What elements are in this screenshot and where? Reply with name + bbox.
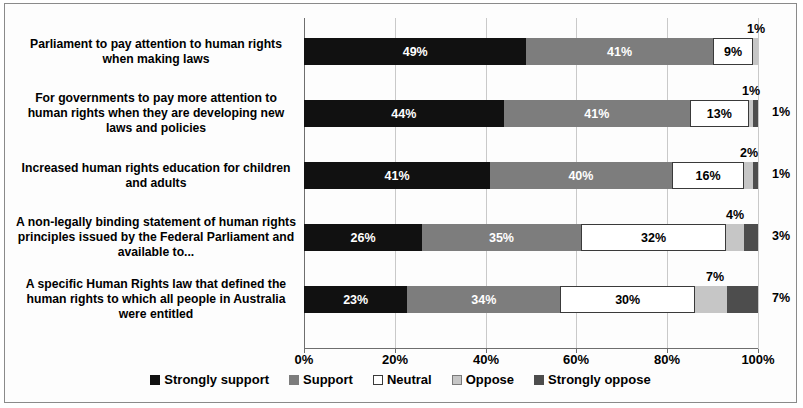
- bar-segment[interactable]: 44%: [304, 100, 504, 127]
- value-axis-tick-label: 20%: [382, 352, 408, 367]
- bar-row: 41%40%16%2%1%: [304, 162, 758, 189]
- bar-segment[interactable]: [753, 38, 758, 65]
- segment-callout-label: 7%: [706, 270, 724, 284]
- segment-value-label: 41%: [584, 107, 609, 121]
- segment-value-label: 44%: [391, 107, 416, 121]
- legend-swatch-icon: [150, 375, 160, 385]
- bar-segment[interactable]: [744, 162, 753, 189]
- bar-segment[interactable]: 35%: [422, 224, 581, 251]
- bar-segment[interactable]: 40%: [490, 162, 672, 189]
- legend-swatch-icon: [373, 375, 383, 385]
- legend-label: Strongly oppose: [548, 372, 651, 387]
- plot-area: 49%41%9%1%44%41%13%1%1%41%40%16%2%1%26%3…: [304, 18, 758, 349]
- segment-value-label: 16%: [696, 169, 721, 183]
- bar-segment[interactable]: [744, 224, 758, 251]
- legend-item[interactable]: Strongly support: [150, 372, 269, 387]
- segment-callout-label: 4%: [726, 208, 744, 222]
- stacked-bar[interactable]: 23%34%30%: [304, 286, 758, 313]
- bar-segment[interactable]: 26%: [304, 224, 422, 251]
- segment-value-label: 23%: [343, 293, 368, 307]
- legend-item[interactable]: Support: [289, 372, 353, 387]
- bar-segment[interactable]: 49%: [304, 38, 526, 65]
- legend-label: Oppose: [466, 372, 514, 387]
- stacked-bar[interactable]: 49%41%9%: [304, 38, 758, 65]
- chart-frame: Parliament to pay attention to human rig…: [4, 3, 797, 403]
- bar-row: 49%41%9%1%: [304, 38, 758, 65]
- segment-value-label: 32%: [641, 231, 666, 245]
- value-axis-tick-labels: 0%20%40%60%80%100%: [304, 352, 758, 370]
- segment-callout-label: 1%: [772, 167, 790, 181]
- legend-item[interactable]: Strongly oppose: [534, 372, 651, 387]
- bar-segment[interactable]: [695, 286, 726, 313]
- value-axis-tick-label: 40%: [473, 352, 499, 367]
- legend-label: Support: [303, 372, 353, 387]
- segment-value-label: 9%: [724, 45, 742, 59]
- bar-segment[interactable]: 41%: [304, 162, 490, 189]
- bar-row: 26%35%32%4%3%: [304, 224, 758, 251]
- segment-value-label: 35%: [489, 231, 514, 245]
- bar-segment[interactable]: [727, 286, 758, 313]
- legend-label: Neutral: [387, 372, 432, 387]
- category-label: For governments to pay more attention to…: [15, 91, 297, 136]
- segment-value-label: 13%: [707, 107, 732, 121]
- value-axis-tick-label: 60%: [563, 352, 589, 367]
- segment-callout-label: 7%: [772, 291, 790, 305]
- bar-segment[interactable]: 9%: [713, 38, 754, 65]
- value-axis-tick-label: 0%: [295, 352, 314, 367]
- segment-value-label: 41%: [385, 169, 410, 183]
- bar-segment[interactable]: 34%: [407, 286, 560, 313]
- bar-segment[interactable]: 13%: [690, 100, 749, 127]
- segment-value-label: 30%: [615, 293, 640, 307]
- bar-segment[interactable]: [726, 224, 744, 251]
- category-axis-line: [304, 348, 758, 349]
- segment-callout-label: 1%: [742, 84, 760, 98]
- category-label: Parliament to pay attention to human rig…: [15, 37, 297, 67]
- segment-value-label: 26%: [351, 231, 376, 245]
- bar-segment[interactable]: 23%: [304, 286, 407, 313]
- category-label: A specific Human Rights law that defined…: [15, 277, 297, 322]
- bar-row: 23%34%30%7%7%: [304, 286, 758, 313]
- bar-segment[interactable]: 16%: [672, 162, 745, 189]
- chart-legend: Strongly supportSupportNeutralOpposeStro…: [5, 372, 796, 387]
- bar-segment[interactable]: [753, 162, 758, 189]
- gridline: [758, 18, 759, 349]
- category-label: Increased human rights education for chi…: [15, 161, 297, 191]
- stacked-bar[interactable]: 44%41%13%: [304, 100, 758, 127]
- value-axis-tick-label: 100%: [741, 352, 774, 367]
- legend-swatch-icon: [452, 375, 462, 385]
- segment-callout-label: 3%: [772, 229, 790, 243]
- value-axis-tick-label: 80%: [654, 352, 680, 367]
- segment-callout-label: 1%: [772, 105, 790, 119]
- segment-value-label: 34%: [471, 293, 496, 307]
- category-label: A non-legally binding statement of human…: [15, 215, 297, 260]
- segment-callout-label: 2%: [740, 146, 758, 160]
- bar-segment[interactable]: 32%: [581, 224, 726, 251]
- segment-value-label: 41%: [607, 45, 632, 59]
- legend-item[interactable]: Oppose: [452, 372, 514, 387]
- bar-segment[interactable]: 30%: [560, 286, 695, 313]
- bar-row: 44%41%13%1%1%: [304, 100, 758, 127]
- legend-label: Strongly support: [164, 372, 269, 387]
- segment-callout-label: 1%: [747, 22, 765, 36]
- segment-value-label: 40%: [568, 169, 593, 183]
- legend-swatch-icon: [289, 375, 299, 385]
- stacked-bar[interactable]: 26%35%32%: [304, 224, 758, 251]
- bar-segment[interactable]: 41%: [526, 38, 712, 65]
- bar-segment[interactable]: [753, 100, 758, 127]
- bar-segment[interactable]: 41%: [504, 100, 690, 127]
- stacked-bar[interactable]: 41%40%16%: [304, 162, 758, 189]
- legend-item[interactable]: Neutral: [373, 372, 432, 387]
- segment-value-label: 49%: [403, 45, 428, 59]
- legend-swatch-icon: [534, 375, 544, 385]
